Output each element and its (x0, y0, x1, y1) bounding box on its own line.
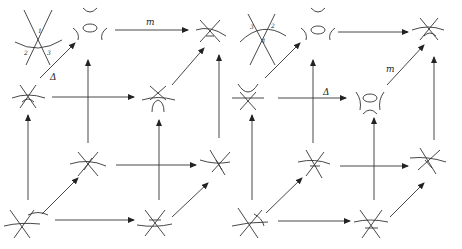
node-bottom-left-r (232, 208, 268, 238)
crossing-label-left-c: 3 (47, 49, 51, 56)
left-cube (4, 8, 230, 238)
crossing-label-left-b: 2 (23, 49, 28, 56)
node-right-r (410, 148, 446, 174)
crossing-label-right-a: 3 (250, 23, 254, 30)
node-top-right (196, 20, 226, 42)
node-mid-right-r (356, 92, 384, 114)
edge-label-m-right: m (386, 64, 395, 74)
edge-label-delta-right: Δ (322, 87, 330, 97)
node-right (200, 150, 230, 175)
crossing-label-right-c: 1 (262, 37, 266, 44)
edge-label-delta-left: Δ (49, 72, 57, 82)
crossing-label-left-a: 1 (38, 27, 42, 34)
node-top-right-r (412, 18, 444, 40)
arrows-left (28, 30, 219, 220)
node-bottom-mid-r (354, 210, 388, 238)
arrows-right (252, 32, 434, 221)
node-mid-left-r (232, 84, 264, 110)
node-center (70, 152, 106, 176)
node-bottom-left (4, 210, 48, 238)
node-center-r (298, 150, 330, 178)
cube-diagrams: 1 2 3 m Δ 3 2 1 m Δ (0, 0, 462, 249)
diagram-canvas: 1 2 3 m Δ 3 2 1 m Δ (0, 0, 462, 249)
edge-label-m-left: m (146, 17, 155, 27)
node-bottom-mid (137, 210, 172, 236)
node-mid-right (142, 86, 175, 112)
node-mid-left (12, 85, 45, 108)
crossing-diagram-left (15, 10, 62, 65)
node-top-mid-r (301, 8, 335, 40)
crossing-label-right-b: 2 (270, 22, 275, 29)
node-top-mid (73, 8, 107, 40)
